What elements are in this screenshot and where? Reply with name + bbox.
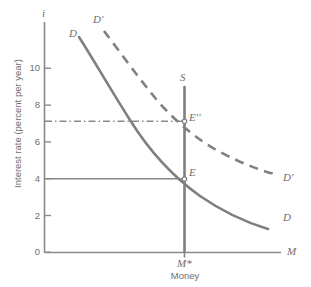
demand-curve-D-prime [104,31,278,175]
supply-curve-label: S [180,72,186,83]
y-tick-label-10: 10 [22,63,40,73]
demand-curve-D [79,37,268,229]
equilibrium-point-E [182,177,186,181]
y-tick-label-0: 0 [22,247,40,257]
equilibrium-point-E-double-prime [182,119,186,123]
y-axis-title: Interest rate (percent per year) [12,44,23,204]
y-tick-label-4: 4 [22,174,40,184]
x-axis-symbol: M [287,246,296,257]
y-tick-label-2: 2 [22,211,40,221]
demand-shift-curve-label-right: D′ [283,172,293,183]
money-star-label: M* [177,258,192,269]
demand-curve-label-right: D [283,212,291,223]
y-tick-marks [45,68,52,252]
x-axis-title: Money [140,270,230,281]
y-tick-label-8: 8 [22,100,40,110]
equilibrium-label-E: E [189,167,196,178]
demand-shift-curve-label-top: D′ [93,14,103,25]
y-tick-label-6: 6 [22,137,40,147]
chart-canvas [0,0,311,287]
equilibrium-label-E-double-prime: E′′ [189,112,201,123]
money-market-chart: i M D D′ D′ D S E′′ E M* 10 8 6 4 2 0 In… [0,0,311,287]
y-axis-symbol: i [42,8,45,19]
demand-curve-label-top: D [69,28,77,39]
